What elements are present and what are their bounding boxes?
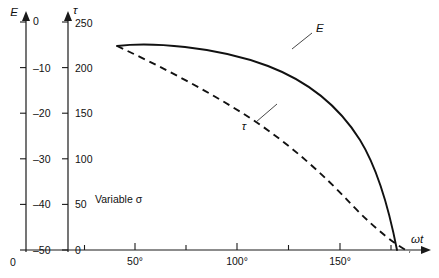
x-tick-label-150: 150°: [329, 255, 351, 267]
left-tick-label-1: –10: [33, 62, 51, 74]
chart-svg: E 0 –10 –20 –30 –40 –50 τ 250 200 150 10…: [0, 0, 439, 278]
leader-line-tau: [256, 104, 277, 122]
left-tick-label-4: –40: [33, 198, 51, 210]
x-axis-title: ωt: [411, 233, 424, 245]
right-tick-label-0: 250: [75, 17, 93, 29]
left-tick-label-0: 0: [33, 15, 39, 27]
variable-sigma-annotation: Variable σ: [95, 193, 143, 205]
x-tick-label-50: 50°: [127, 255, 143, 267]
right-tick-label-2: 150: [75, 107, 93, 119]
tau-axis-arrow: [64, 11, 72, 21]
curve-E: [117, 45, 397, 250]
origin-label: 0: [10, 256, 16, 268]
leader-line-E: [292, 33, 312, 49]
chart-figure: E 0 –10 –20 –30 –40 –50 τ 250 200 150 10…: [0, 0, 439, 278]
curve-label-tau: τ: [242, 120, 247, 132]
curve-label-E: E: [316, 22, 324, 34]
left-axis-title: E: [10, 6, 18, 18]
left-tick-label-3: –30: [33, 153, 51, 165]
left-axis-arrow: [22, 11, 30, 21]
x-tick-label-100: 100°: [226, 255, 248, 267]
right-axis-tau: [62, 11, 72, 252]
left-tick-label-2: –20: [33, 107, 51, 119]
right-tick-label-4: 50: [75, 198, 87, 210]
x-axis-arrow: [421, 246, 431, 254]
x-axis: [26, 243, 431, 254]
right-tick-label-3: 100: [75, 153, 93, 165]
left-axis-E: [20, 11, 30, 252]
right-tick-label-1: 200: [75, 62, 93, 74]
right-axis-title: τ: [73, 4, 78, 16]
